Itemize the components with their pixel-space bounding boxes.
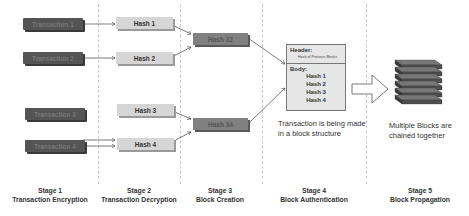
stage-4-label: Stage 4 Block Authentication — [264, 186, 364, 204]
stage-5-label: Stage 5 Block Propagation — [370, 186, 469, 204]
chained-blocks-stack-icon — [395, 60, 442, 104]
transaction-3-box: Transaction 3 — [25, 108, 85, 120]
hash-4-box: Hash 4 — [117, 138, 174, 150]
stage-3-number: Stage 3 — [170, 186, 270, 195]
hash-2-box: Hash 2 — [116, 52, 173, 64]
stage4-caption: Transaction is being made in a block str… — [278, 119, 366, 139]
block-body-label: Body: — [287, 64, 345, 72]
stage-5-title: Block Propagation — [370, 195, 469, 204]
block-header-label: Header: — [290, 47, 345, 53]
block-body-item: Hash 4 — [287, 96, 345, 104]
stage-4-title: Block Authentication — [264, 195, 364, 204]
stage4-caption-line1: Transaction is being made — [278, 119, 366, 129]
stage4-caption-line2: in a block structure — [278, 129, 366, 139]
stage5-caption-line2: chained together — [389, 131, 452, 141]
block-body-item: Hash 3 — [287, 88, 345, 96]
hash-3-box: Hash 3 — [117, 104, 174, 116]
stage-1-number: Stage 1 — [0, 186, 100, 195]
stage-3-label: Stage 3 Block Creation — [170, 186, 270, 204]
stage-5-number: Stage 5 — [370, 186, 469, 195]
hash-1-box: Hash 1 — [116, 17, 173, 29]
stage-1-title: Transaction Encryption — [0, 195, 100, 204]
transaction-1-box: Transaction 1 — [23, 18, 83, 30]
block-body-item: Hash 2 — [287, 80, 345, 88]
transaction-4-box: Transaction 4 — [25, 140, 85, 152]
transaction-2-box: Transaction 2 — [23, 52, 83, 64]
propagation-arrow-icon — [352, 75, 388, 103]
block-body-item: Hash 1 — [287, 72, 345, 80]
stage-3-title: Block Creation — [170, 195, 270, 204]
hash-34-box: Hash 34 — [193, 118, 248, 130]
stage5-caption: Multiple Blocks are chained together — [389, 121, 452, 141]
block-header: Header: Hash of Previous Blocks — [287, 45, 345, 64]
block-header-value: Hash of Previous Blocks — [290, 55, 345, 59]
stage-1-label: Stage 1 Transaction Encryption — [0, 186, 100, 204]
stage5-caption-line1: Multiple Blocks are — [389, 121, 452, 131]
block-structure: Header: Hash of Previous Blocks Body: Ha… — [286, 44, 346, 111]
stage-4-number: Stage 4 — [264, 186, 364, 195]
blockchain-process-diagram: Transaction 1 Transaction 2 Transaction … — [0, 0, 469, 216]
hash-12-box: Hash 12 — [193, 33, 248, 45]
